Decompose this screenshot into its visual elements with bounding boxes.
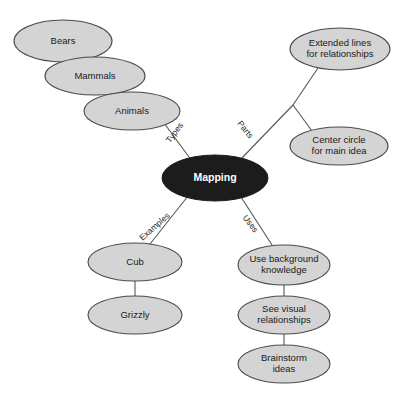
node-cub[interactable]: Cub bbox=[88, 243, 182, 281]
node-label-grizzly: Grizzly bbox=[120, 309, 149, 320]
node-label-mammals: Mammals bbox=[74, 70, 115, 81]
connector-junction-extended bbox=[293, 68, 318, 105]
branch-label-parts: Parts bbox=[236, 119, 256, 141]
node-label-see-visual-relationships: relationships bbox=[257, 314, 311, 325]
node-brainstorm-ideas[interactable]: Brainstormideas bbox=[238, 345, 330, 383]
node-center-circle[interactable]: Center circlefor main idea bbox=[290, 127, 388, 165]
node-layer: BearsMammalsAnimalsExtended linesfor rel… bbox=[14, 20, 390, 383]
node-use-background-knowledge[interactable]: Use backgroundknowledge bbox=[238, 245, 330, 285]
branch-label-uses: Uses bbox=[241, 213, 261, 234]
mind-map-svg: BearsMammalsAnimalsExtended linesfor rel… bbox=[0, 0, 395, 401]
center-node-mapping[interactable]: Mapping bbox=[162, 155, 268, 201]
node-bears[interactable]: Bears bbox=[14, 20, 112, 62]
node-label-cub: Cub bbox=[126, 256, 143, 267]
node-label-animals: Animals bbox=[115, 105, 149, 116]
node-label-center-circle: for main idea bbox=[312, 145, 368, 156]
node-label-brainstorm-ideas: Brainstorm bbox=[261, 352, 307, 363]
node-see-visual-relationships[interactable]: See visualrelationships bbox=[238, 296, 330, 334]
node-label-brainstorm-ideas: ideas bbox=[273, 363, 296, 374]
node-label-bears: Bears bbox=[51, 35, 76, 46]
node-grizzly[interactable]: Grizzly bbox=[88, 296, 182, 334]
node-label-use-background-knowledge: Use background bbox=[249, 253, 318, 264]
node-label-use-background-knowledge: knowledge bbox=[261, 264, 306, 275]
center-node-label: Mapping bbox=[193, 171, 236, 183]
node-label-extended-lines: for relationships bbox=[306, 48, 373, 59]
node-label-center-circle: Center circle bbox=[312, 134, 365, 145]
center-node-layer: Mapping bbox=[162, 155, 268, 201]
node-animals[interactable]: Animals bbox=[84, 92, 180, 130]
node-mammals[interactable]: Mammals bbox=[45, 57, 145, 95]
connector-junction-center-circle bbox=[293, 105, 312, 131]
mind-map-canvas: BearsMammalsAnimalsExtended linesfor rel… bbox=[0, 0, 395, 401]
node-label-extended-lines: Extended lines bbox=[309, 37, 372, 48]
node-extended-lines[interactable]: Extended linesfor relationships bbox=[290, 28, 390, 70]
node-label-see-visual-relationships: See visual bbox=[262, 303, 306, 314]
